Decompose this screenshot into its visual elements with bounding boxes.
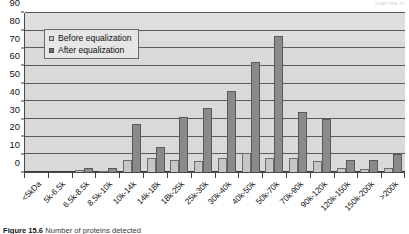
bar-group <box>191 13 215 172</box>
bar-after[interactable] <box>156 147 165 172</box>
bar-after[interactable] <box>227 91 236 172</box>
bar-group <box>286 13 310 172</box>
y-tick-label-10: 10 <box>10 139 20 150</box>
y-tick-mark-10 <box>21 154 25 155</box>
bar-after[interactable] <box>203 108 212 172</box>
caption-figure-number: Figure 15.6 <box>3 226 43 234</box>
x-axis-labels: <5kDa5k-6.5k6.5k-8.5k8.5k-10k10k-14k14k-… <box>24 178 405 220</box>
legend-item-before[interactable]: Before equalization <box>49 33 132 43</box>
bar-after[interactable] <box>393 154 402 172</box>
legend-label-before: Before equalization <box>58 33 132 43</box>
bar-before[interactable] <box>313 161 322 172</box>
y-tick-label-30: 30 <box>10 103 20 114</box>
x-tick-label: >200k <box>377 179 400 202</box>
y-tick-mark-40 <box>21 100 25 101</box>
bar-group <box>334 13 358 172</box>
y-tick-label-0: 0 <box>15 157 20 168</box>
running-head: CHAPTER 15 <box>375 1 405 6</box>
figure-container: CHAPTER 15 0102030405060708090 <5kDa5k-6… <box>0 0 409 234</box>
figure-caption: Figure 15.6 Number of proteins detected <box>3 226 403 234</box>
y-tick-label-40: 40 <box>10 85 20 96</box>
bar-before[interactable] <box>75 170 84 172</box>
y-tick-label-60: 60 <box>10 50 20 61</box>
bar-group <box>310 13 334 172</box>
bar-group <box>263 13 287 172</box>
bar-after[interactable] <box>251 62 260 172</box>
bar-after[interactable] <box>322 119 331 172</box>
bar-group <box>215 13 239 172</box>
legend-swatch-before-icon <box>49 36 54 41</box>
bar-after[interactable] <box>274 36 283 172</box>
bar-group <box>168 13 192 172</box>
y-tick-label-70: 70 <box>10 32 20 43</box>
bar-after[interactable] <box>179 117 188 172</box>
y-tick-mark-20 <box>21 136 25 137</box>
bar-after[interactable] <box>108 168 117 172</box>
bar-before[interactable] <box>218 158 227 172</box>
bar-before[interactable] <box>170 160 179 172</box>
y-tick-mark-30 <box>21 118 25 119</box>
legend-label-after: After equalization <box>58 45 124 55</box>
bar-before[interactable] <box>384 168 393 172</box>
caption-text: Number of proteins detected <box>45 226 141 234</box>
bar-group <box>358 13 382 172</box>
bar-before[interactable] <box>337 168 346 172</box>
legend-item-after[interactable]: After equalization <box>49 45 132 55</box>
y-tick-mark-90 <box>21 12 25 13</box>
x-label-cell: >200k <box>381 178 405 220</box>
y-tick-label-80: 80 <box>10 14 20 25</box>
x-tick-label: <5kDa <box>19 179 43 203</box>
y-tick-mark-80 <box>21 29 25 30</box>
bar-after[interactable] <box>298 112 307 172</box>
bar-before[interactable] <box>265 158 274 172</box>
y-tick-label-50: 50 <box>10 68 20 79</box>
bar-before[interactable] <box>147 158 156 172</box>
bar-group <box>381 13 405 172</box>
bar-after[interactable] <box>132 124 141 172</box>
bar-after[interactable] <box>369 160 378 172</box>
bar-after[interactable] <box>346 160 355 172</box>
bar-group <box>239 13 263 172</box>
legend-swatch-after-icon <box>49 48 54 53</box>
bar-before[interactable] <box>289 158 298 172</box>
bar-before[interactable] <box>194 161 203 172</box>
y-tick-label-20: 20 <box>10 121 20 132</box>
bar-before[interactable] <box>242 153 251 172</box>
y-tick-mark-50 <box>21 83 25 84</box>
bar-group <box>144 13 168 172</box>
bar-before[interactable] <box>123 160 132 172</box>
chart-legend: Before equalization After equalization <box>44 29 139 59</box>
y-tick-label-90: 90 <box>10 0 20 8</box>
bar-before[interactable] <box>99 171 108 172</box>
x-label-cell: 150k-200k <box>357 178 381 220</box>
y-tick-mark-60 <box>21 65 25 66</box>
bar-after[interactable] <box>84 168 93 172</box>
bar-before[interactable] <box>360 169 369 172</box>
y-tick-mark-70 <box>21 47 25 48</box>
